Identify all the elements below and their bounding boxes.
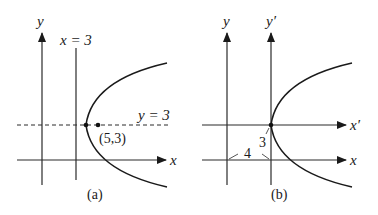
panel-a-caption: (a) bbox=[87, 187, 103, 203]
focus-point bbox=[96, 123, 101, 128]
panel-b-caption: (b) bbox=[271, 187, 288, 203]
panel-b-x-axis-label: x bbox=[349, 152, 357, 168]
panel-b-y-prime-axis-label: y′ bbox=[264, 13, 277, 29]
panel-b-vertex-point bbox=[269, 123, 274, 128]
panel-b-x-prime-axis-label: x′ bbox=[349, 117, 361, 133]
focus-label: (5,3) bbox=[99, 131, 126, 147]
vertex-point bbox=[84, 123, 89, 128]
panel-b-y-axis-label: y bbox=[221, 13, 230, 29]
panel-a: y x x = 3 y = 3 (5,3) (a) bbox=[17, 13, 177, 203]
horizontal-shift-label: 4 bbox=[244, 146, 251, 161]
panel-a-y-axis-label: y bbox=[35, 13, 44, 29]
horizontal-shift-leader-right bbox=[262, 154, 269, 159]
directrix-label: x = 3 bbox=[59, 32, 92, 48]
axis-of-symmetry-label: y = 3 bbox=[136, 107, 170, 123]
parabola-translation-figure: y x x = 3 y = 3 (5,3) (a) y bbox=[0, 0, 378, 215]
horizontal-shift-leader-left bbox=[229, 154, 238, 159]
vertical-shift-label: 3 bbox=[259, 135, 266, 150]
vertical-shift-leader bbox=[266, 128, 269, 134]
panel-b: y y′ x′ x 4 3 (b) bbox=[202, 13, 361, 203]
panel-a-x-axis-label: x bbox=[169, 152, 177, 168]
